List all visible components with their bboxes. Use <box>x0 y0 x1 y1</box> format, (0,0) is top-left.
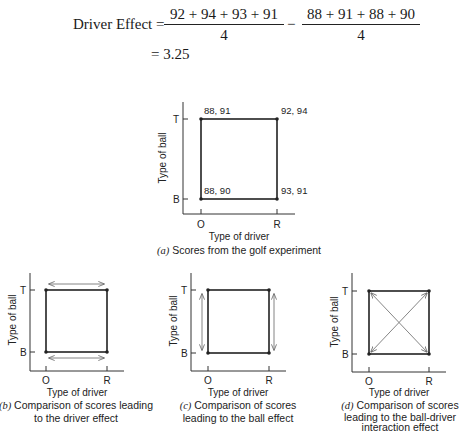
x-tick-label-r: R <box>273 219 280 230</box>
factorial-design-diagrams: T B O R 88, 91 92, 94 88, 90 93, 91 Type… <box>0 0 464 432</box>
score-label-r-b: 93, 91 <box>281 185 307 196</box>
corner-point <box>206 351 210 355</box>
y-tick-label-b: B <box>181 348 188 359</box>
corner-point <box>367 352 371 356</box>
panel-c-ball-effect: T B O R Type of ball Type of driver (c) … <box>168 273 296 424</box>
x-axis-label: Type of driver <box>47 387 108 398</box>
score-label-o-t: 88, 91 <box>204 105 230 116</box>
design-square <box>46 290 107 352</box>
x-tick-label-r: R <box>265 375 272 386</box>
panel-a-scores: T B O R 88, 91 92, 94 88, 90 93, 91 Type… <box>157 102 321 257</box>
y-tick-label-t: T <box>173 114 179 125</box>
y-tick-label-b: B <box>342 349 349 360</box>
corner-point <box>105 350 109 354</box>
corner-point <box>105 288 109 292</box>
panel-d-interaction-effect: T B O R Type of ball Type of driver (d) … <box>329 273 459 432</box>
y-tick-label-t: T <box>181 285 187 296</box>
corner-point <box>199 197 203 201</box>
corner-point <box>44 288 48 292</box>
x-tick-label-o: O <box>197 219 205 230</box>
x-axis-label: Type of driver <box>369 387 430 398</box>
corner-point <box>427 352 431 356</box>
x-tick-label-r: R <box>103 375 110 386</box>
design-square <box>208 290 269 353</box>
x-tick-label-o: O <box>365 376 373 387</box>
y-tick-label-b: B <box>173 194 180 205</box>
caption-c-line2: leading to the ball effect <box>183 412 294 424</box>
corner-point <box>44 350 48 354</box>
x-axis-label: Type of driver <box>208 387 269 398</box>
caption-d-line3: interaction effect <box>362 421 439 432</box>
score-label-o-b: 88, 90 <box>204 185 230 196</box>
x-tick-label-o: O <box>42 375 50 386</box>
corner-point <box>275 117 279 121</box>
y-axis-label: Type of ball <box>157 132 168 183</box>
corner-point <box>206 288 210 292</box>
x-axis-label: Type of driver <box>209 231 270 242</box>
y-axis-label: Type of ball <box>168 295 179 346</box>
y-axis-label: Type of ball <box>7 294 18 345</box>
corner-point <box>367 289 371 293</box>
caption-b-line1: (b) Comparison of scores leading <box>0 399 153 412</box>
caption-b-line2: to the driver effect <box>34 412 118 424</box>
x-tick-label-r: R <box>425 376 432 387</box>
y-tick-label-t: T <box>342 286 348 297</box>
corner-point <box>267 288 271 292</box>
score-label-r-t: 92, 94 <box>281 105 307 116</box>
corner-point <box>267 351 271 355</box>
y-tick-label-t: T <box>20 285 26 296</box>
corner-point <box>275 197 279 201</box>
caption-c-line1: (c) Comparison of scores <box>180 399 297 412</box>
corner-point <box>199 117 203 121</box>
caption-a: (a) Scores from the golf experiment <box>157 244 321 257</box>
panel-b-driver-effect: T B O R Type of ball Type of driver (b) … <box>0 273 153 424</box>
x-tick-label-o: O <box>204 375 212 386</box>
y-axis-label: Type of ball <box>329 296 340 347</box>
y-tick-label-b: B <box>20 347 27 358</box>
corner-point <box>427 289 431 293</box>
